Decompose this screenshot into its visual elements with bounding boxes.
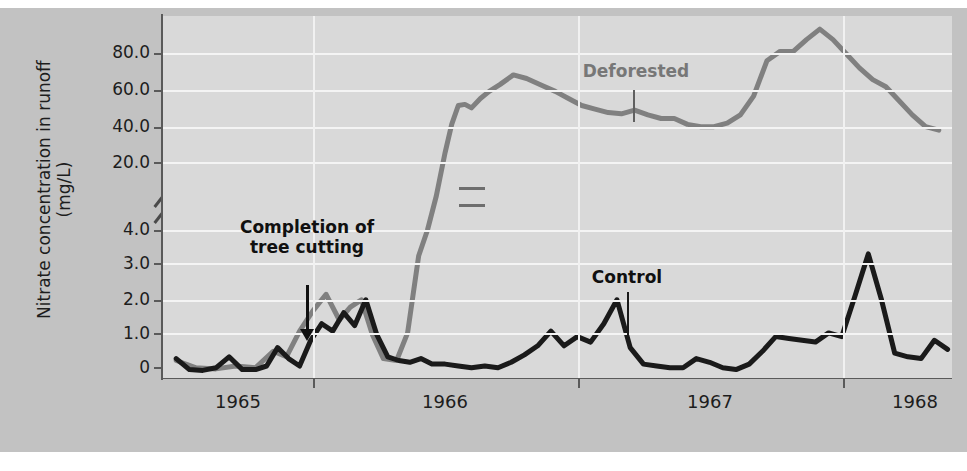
y-tick-label-40: 40.0 (90, 118, 150, 135)
y-tick-label-0: 0 (90, 359, 150, 376)
annotation-control-label: Control (572, 268, 682, 288)
y-tick-label-80: 80.0 (90, 44, 150, 61)
y-tick-label-2: 2.0 (90, 291, 150, 308)
curve-break-mark-upper (459, 187, 485, 190)
vgridline-1967 (843, 16, 845, 378)
gridline-80 (163, 53, 952, 55)
x-tick-mark-1965 (313, 379, 315, 388)
gridline-3 (163, 263, 952, 265)
annotation-tree-cutting: Completion of tree cutting (192, 218, 422, 257)
y-tick-label-4: 4.0 (90, 221, 150, 238)
curve-break-mark-lower (459, 204, 485, 207)
y-tick-label-20: 20.0 (90, 154, 150, 171)
x-tick-label-1967: 1967 (665, 391, 755, 412)
x-tick-label-1966: 1966 (400, 391, 490, 412)
gridline-20 (163, 162, 952, 164)
gridline-60 (163, 90, 952, 92)
x-tick-mark-1967 (843, 379, 845, 388)
gridline-1 (163, 333, 952, 335)
x-tick-mark-1966 (578, 379, 580, 388)
y-axis-title: Nitrate concentration in runoff (mg/L) (35, 25, 74, 355)
x-tick-label-1965: 1965 (193, 391, 283, 412)
annotation-tree-cutting-line1: Completion of (192, 218, 422, 238)
y-tick-label-60: 60.0 (90, 81, 150, 98)
y-axis-title-line2: (mg/L) (55, 25, 75, 355)
series-line-control (176, 254, 947, 371)
vgridline-1965 (313, 16, 315, 378)
figure-container: Nitrate concentration in runoff (mg/L) 8… (0, 0, 967, 471)
y-axis-title-line1: Nitrate concentration in runoff (35, 25, 55, 355)
annotation-deforested-leader (633, 90, 635, 122)
y-tick-label-3: 3.0 (90, 255, 150, 272)
x-tick-label-1968: 1968 (870, 391, 960, 412)
annotation-control-leader (627, 292, 629, 340)
annotation-tree-cutting-arrow-head (300, 329, 314, 341)
annotation-tree-cutting-line2: tree cutting (192, 238, 422, 258)
gridline-2 (163, 300, 952, 302)
annotation-deforested-label: Deforested (556, 62, 716, 82)
y-tick-label-1: 1.0 (90, 325, 150, 342)
annotation-tree-cutting-arrow-shaft (306, 285, 309, 333)
gridline-40 (163, 127, 952, 129)
